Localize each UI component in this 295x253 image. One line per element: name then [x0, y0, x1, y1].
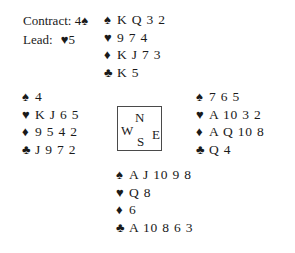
hand-south-clubs: ♣A 10 8 6 3 — [116, 219, 193, 237]
lead-rank: 5 — [69, 32, 76, 47]
compass-box: N W E S — [117, 106, 162, 151]
hand-east-hearts: ♥A 10 3 2 — [196, 106, 265, 124]
compass-east-label: E — [152, 128, 160, 141]
club-icon: ♣ — [104, 64, 117, 82]
hand-east-clubs: ♣Q 4 — [196, 141, 265, 159]
heart-icon: ♥ — [196, 106, 209, 124]
hand-south: ♠A J 10 9 8 ♥Q 8 ♦6 ♣A 10 8 6 3 — [116, 166, 193, 236]
contract-row: Contract: 4♠ — [23, 11, 88, 30]
bridge-hand-diagram: Contract: 4♠ Lead: ♥5 ♠K Q 3 2 ♥9 7 4 ♦K… — [0, 0, 295, 253]
heart-icon: ♥ — [61, 32, 69, 47]
hand-west: ♠4 ♥K J 6 5 ♦9 5 4 2 ♣J 9 7 2 — [22, 88, 79, 158]
club-icon: ♣ — [116, 219, 129, 237]
hand-south-spade-cards: A J 10 9 8 — [129, 166, 192, 184]
hand-east-diamonds: ♦A Q 10 8 — [196, 123, 265, 141]
hand-west-diamond-cards: 9 5 4 2 — [35, 123, 78, 141]
lead-row: Lead: ♥5 — [23, 30, 88, 49]
compass-south-label: S — [137, 135, 144, 148]
hand-south-heart-cards: Q 8 — [129, 184, 151, 202]
hand-east-spades: ♠7 6 5 — [196, 88, 265, 106]
heart-icon: ♥ — [116, 184, 129, 202]
hand-south-hearts: ♥Q 8 — [116, 184, 193, 202]
hand-north-heart-cards: 9 7 4 — [117, 29, 148, 47]
diamond-icon: ♦ — [104, 46, 117, 64]
hand-south-club-cards: A 10 8 6 3 — [129, 219, 193, 237]
club-icon: ♣ — [196, 141, 209, 159]
spade-icon: ♠ — [196, 88, 209, 106]
hand-south-diamond-cards: 6 — [129, 201, 137, 219]
hand-south-diamonds: ♦6 — [116, 201, 193, 219]
hand-west-spades: ♠4 — [22, 88, 79, 106]
hand-east-spade-cards: 7 6 5 — [209, 88, 240, 106]
diamond-icon: ♦ — [196, 123, 209, 141]
hand-west-spade-cards: 4 — [35, 88, 43, 106]
hand-east: ♠7 6 5 ♥A 10 3 2 ♦A Q 10 8 ♣Q 4 — [196, 88, 265, 158]
hand-west-heart-cards: K J 6 5 — [35, 106, 79, 124]
hand-west-clubs: ♣J 9 7 2 — [22, 141, 79, 159]
hand-north-club-cards: K 5 — [117, 64, 139, 82]
lead-label: Lead: — [23, 32, 58, 47]
club-icon: ♣ — [22, 141, 35, 159]
hand-north: ♠K Q 3 2 ♥9 7 4 ♦K J 7 3 ♣K 5 — [104, 11, 166, 81]
contract-info: Contract: 4♠ Lead: ♥5 — [23, 11, 88, 49]
hand-west-hearts: ♥K J 6 5 — [22, 106, 79, 124]
compass-west-label: W — [121, 124, 133, 137]
hand-south-spades: ♠A J 10 9 8 — [116, 166, 193, 184]
diamond-icon: ♦ — [22, 123, 35, 141]
hand-north-clubs: ♣K 5 — [104, 64, 166, 82]
hand-west-club-cards: J 9 7 2 — [35, 141, 76, 159]
heart-icon: ♥ — [104, 29, 117, 47]
hand-north-hearts: ♥9 7 4 — [104, 29, 166, 47]
hand-north-diamonds: ♦K J 7 3 — [104, 46, 166, 64]
contract-label: Contract: — [23, 13, 71, 28]
spade-icon: ♠ — [104, 11, 117, 29]
hand-north-spades: ♠K Q 3 2 — [104, 11, 166, 29]
spade-icon: ♠ — [81, 13, 88, 28]
diamond-icon: ♦ — [116, 201, 129, 219]
hand-north-spade-cards: K Q 3 2 — [117, 11, 166, 29]
hand-east-diamond-cards: A Q 10 8 — [209, 123, 265, 141]
hand-west-diamonds: ♦9 5 4 2 — [22, 123, 79, 141]
spade-icon: ♠ — [22, 88, 35, 106]
heart-icon: ♥ — [22, 106, 35, 124]
hand-east-heart-cards: A 10 3 2 — [209, 106, 262, 124]
compass-north-label: N — [135, 111, 144, 124]
hand-north-diamond-cards: K J 7 3 — [117, 46, 161, 64]
spade-icon: ♠ — [116, 166, 129, 184]
hand-east-club-cards: Q 4 — [209, 141, 231, 159]
